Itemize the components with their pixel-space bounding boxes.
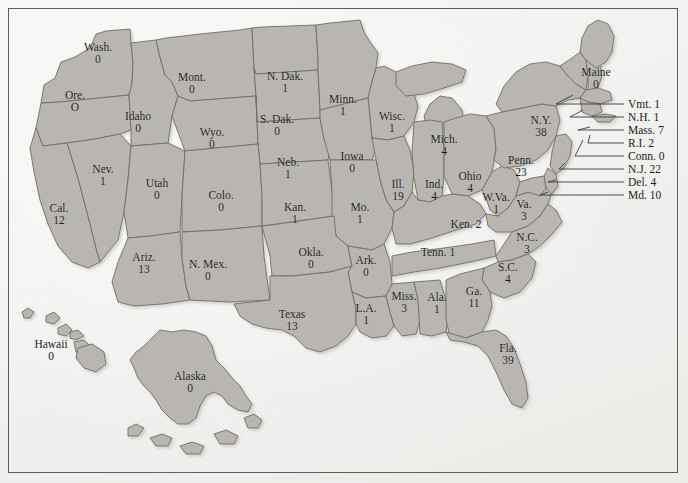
state-label: Ore.O: [65, 89, 85, 114]
state-name: Ore.: [65, 89, 85, 101]
state-name: Minn.: [329, 93, 357, 105]
callout-state-value: 10: [650, 189, 662, 201]
state-name: Neb.: [277, 156, 299, 168]
state-label: Wyo.0: [200, 126, 225, 151]
callout-label: Del.4: [628, 176, 656, 188]
state-label: N. Mex.0: [189, 258, 227, 283]
callout-state-name: Md.: [628, 189, 647, 201]
state-label: Alaska0: [174, 370, 206, 395]
state-label: Colo.0: [208, 189, 233, 214]
state-value: 0: [189, 270, 227, 282]
state-value: 0: [298, 258, 323, 270]
state-value: 3: [516, 210, 531, 222]
state-label: Mich.4: [430, 133, 457, 158]
state-label: Iowa0: [341, 150, 364, 175]
state-name: Wyo.: [200, 126, 225, 138]
state-name: Texas: [279, 308, 306, 320]
state-value: 3: [516, 243, 538, 255]
state-name: Fla.: [499, 342, 517, 354]
state-value: 0: [208, 201, 233, 213]
callout-state-name: Conn.: [628, 150, 656, 162]
state-value: 3: [391, 302, 416, 314]
state-name: Iowa: [341, 150, 364, 162]
state-name: Idaho: [125, 110, 151, 122]
state-name: Mich.: [430, 133, 457, 145]
state-label: W.Va.1: [482, 191, 510, 216]
state-label: N. Dak.1: [267, 70, 303, 95]
state-value: 4: [459, 182, 482, 194]
callout-state-name: R.I.: [628, 137, 645, 149]
state-value: 39: [499, 354, 517, 366]
callout-state-name: Del.: [628, 176, 647, 188]
callout-state-name: N.J.: [628, 163, 647, 175]
state-name: Mo.: [351, 201, 370, 213]
state-label: Ind.4: [425, 178, 443, 203]
state-name: Miss.: [391, 290, 416, 302]
state-label: Miss.3: [391, 290, 416, 315]
state-label: Ohio4: [459, 170, 482, 195]
state-name: Ariz.: [132, 251, 155, 263]
state-label: L.A.1: [355, 302, 376, 327]
callout-label: N.J.22: [628, 163, 661, 175]
state-value: 1: [351, 213, 370, 225]
callout-state-value: 22: [650, 163, 662, 175]
callout-label: Md.10: [628, 189, 661, 201]
state-value: 12: [50, 214, 69, 226]
state-name: Ala.: [427, 291, 446, 303]
state-label: Ariz.13: [132, 251, 155, 276]
state-value: 1: [267, 82, 303, 94]
state-value: O: [65, 101, 85, 113]
state-label: Okla.0: [298, 246, 323, 271]
callout-state-value: 1: [654, 98, 660, 110]
callout-state-value: 7: [658, 124, 664, 136]
state-label: Ill.19: [391, 178, 404, 203]
state-label: Mo.1: [351, 201, 370, 226]
state-label: Ga.11: [466, 285, 482, 310]
state-label: S. Dak.0: [260, 113, 294, 138]
state-name: Cal.: [50, 202, 69, 214]
state-label: Ark.0: [356, 254, 377, 279]
state-value: 0: [146, 189, 168, 201]
state-label: Wash.0: [84, 41, 112, 66]
state-name: Alaska: [174, 370, 206, 382]
state-value: 0: [341, 162, 364, 174]
state-value: 1: [482, 203, 510, 215]
state-name: Okla.: [298, 246, 323, 258]
callout-anchor-line: [570, 110, 583, 117]
state-name: Colo.: [208, 189, 233, 201]
state-name: S.C.: [498, 261, 518, 273]
state-name: Va.: [516, 198, 531, 210]
callout-anchor-line: [588, 135, 590, 143]
state-value: 1: [355, 314, 376, 326]
state-value: 11: [466, 297, 482, 309]
callout-state-name: Vmt.: [628, 98, 651, 110]
state-value: 0: [34, 350, 67, 362]
state-name: Nev.: [92, 163, 113, 175]
state-name: N. Mex.: [189, 258, 227, 270]
state-label: Cal.12: [50, 202, 69, 227]
state-name: Ind.: [425, 178, 443, 190]
state-label: Ala.1: [427, 291, 446, 316]
state-label: Hawaii0: [34, 338, 67, 363]
callout-label: Conn.0: [628, 150, 665, 162]
state-name: L.A.: [355, 302, 376, 314]
state-value: 13: [279, 320, 306, 332]
state-name: Ohio: [459, 170, 482, 182]
state-value: 0: [260, 125, 294, 137]
state-name: Hawaii: [34, 338, 67, 350]
callout-label: Mass.7: [628, 124, 664, 136]
state-name: Ken.: [451, 218, 473, 230]
state-name: Maine: [581, 66, 610, 78]
state-value: 0: [174, 382, 206, 394]
callout-label: Vmt.1: [628, 98, 660, 110]
callout-anchor-line: [575, 140, 583, 156]
state-label: N.C.3: [516, 231, 538, 256]
state-label: Maine0: [581, 66, 610, 91]
state-label: Minn.1: [329, 93, 357, 118]
callout-label: R.I.2: [628, 137, 654, 149]
state-value: 0: [84, 53, 112, 65]
state-label: Idaho0: [125, 110, 151, 135]
state-name: Wisc.: [379, 110, 405, 122]
state-name: Kan.: [284, 201, 306, 213]
state-label: Va.3: [516, 198, 531, 223]
